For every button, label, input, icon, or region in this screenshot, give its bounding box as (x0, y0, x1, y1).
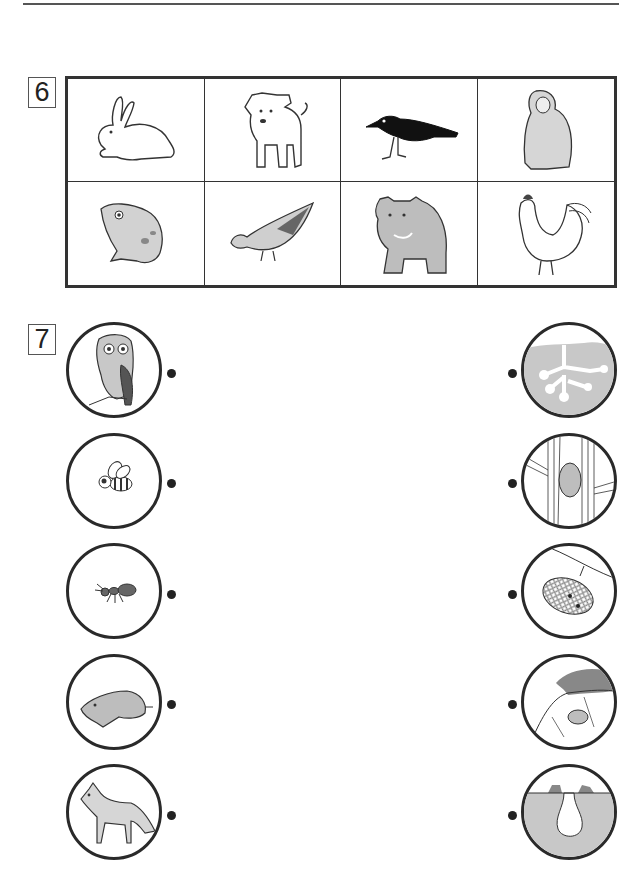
top-rule (23, 3, 619, 5)
fox-icon (69, 767, 159, 857)
right-dot-tree-hollow[interactable] (508, 479, 517, 488)
left-dot-ant[interactable] (167, 590, 176, 599)
right-circle-beehive[interactable] (521, 543, 617, 639)
right-circle-ant-tunnels[interactable] (521, 322, 617, 418)
tree-hollow-icon (524, 436, 614, 526)
right-dot-hillside-burrow[interactable] (508, 700, 517, 709)
left-circle-ant[interactable] (66, 543, 162, 639)
left-circle-fox[interactable] (66, 764, 162, 860)
right-dot-ant-tunnels[interactable] (508, 369, 517, 378)
rabbit-icon (81, 85, 191, 175)
frog-icon (81, 189, 191, 279)
exercise-6-number: 6 (28, 77, 56, 108)
bee-icon (69, 436, 159, 526)
crow-icon (354, 85, 464, 175)
mole-burrow-icon (524, 767, 614, 857)
ant-tunnels-icon (524, 325, 614, 415)
left-dot-fox[interactable] (167, 811, 176, 820)
monkey-icon (491, 85, 601, 175)
ant-icon (69, 546, 159, 636)
grid-cell-pigeon[interactable] (205, 182, 342, 285)
grid-cell-monkey[interactable] (478, 79, 615, 182)
right-dot-beehive[interactable] (508, 590, 517, 599)
dog-icon (217, 85, 327, 175)
animal-grid (65, 76, 617, 288)
left-circle-mole[interactable] (66, 654, 162, 750)
hillside-burrow-icon (524, 657, 614, 747)
pigeon-icon (217, 189, 327, 279)
right-circle-tree-hollow[interactable] (521, 433, 617, 529)
exercise-7-number: 7 (28, 324, 56, 355)
bear-icon (354, 189, 464, 279)
grid-cell-rooster[interactable] (478, 182, 615, 285)
right-dot-mole-burrow[interactable] (508, 811, 517, 820)
right-circle-hillside-burrow[interactable] (521, 654, 617, 750)
grid-cell-rabbit[interactable] (68, 79, 205, 182)
left-circle-bee[interactable] (66, 433, 162, 529)
owl-icon (69, 325, 159, 415)
grid-cell-bear[interactable] (341, 182, 478, 285)
left-dot-mole[interactable] (167, 700, 176, 709)
grid-cell-crow[interactable] (341, 79, 478, 182)
left-circle-owl[interactable] (66, 322, 162, 418)
mole-icon (69, 657, 159, 747)
grid-cell-frog[interactable] (68, 182, 205, 285)
right-circle-mole-burrow[interactable] (521, 764, 617, 860)
rooster-icon (491, 189, 601, 279)
left-dot-bee[interactable] (167, 479, 176, 488)
left-dot-owl[interactable] (167, 369, 176, 378)
grid-cell-dog[interactable] (205, 79, 342, 182)
beehive-icon (524, 546, 614, 636)
